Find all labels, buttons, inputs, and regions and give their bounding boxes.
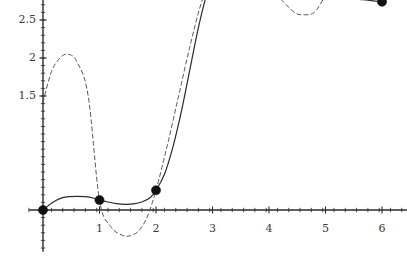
x-axis-tick-label: 2 [136, 223, 176, 234]
axis-ticks [29, 0, 402, 248]
series-dashed-interpolant [43, 0, 382, 236]
chart-figure: 1.522.533.5123456 [0, 0, 407, 256]
series-data-points [38, 0, 386, 215]
data-point [95, 196, 104, 205]
y-axis-tick-label: 2 [29, 52, 36, 63]
data-point [38, 205, 47, 214]
chart-plot-area [0, 0, 407, 256]
x-axis-tick-label: 4 [249, 223, 289, 234]
data-point [377, 0, 386, 6]
series-solid-interpolant [43, 0, 382, 210]
data-point [151, 186, 160, 195]
x-axis-tick-label: 6 [362, 223, 402, 234]
x-axis-tick-label: 1 [80, 223, 120, 234]
x-axis-tick-label: 3 [193, 223, 233, 234]
x-axis-tick-label: 5 [306, 223, 346, 234]
y-axis-tick-label: 2.5 [19, 14, 37, 25]
y-axis-tick-label: 1.5 [19, 90, 37, 101]
